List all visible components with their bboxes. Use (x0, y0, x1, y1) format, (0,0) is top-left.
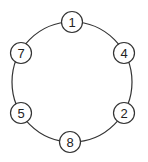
node-label: 4 (120, 46, 127, 61)
node-label: 1 (68, 15, 75, 30)
node-4: 4 (114, 43, 135, 64)
cycle-diagram: 142857 (0, 0, 148, 162)
node-label: 5 (17, 106, 24, 121)
node-2: 2 (114, 103, 135, 124)
ring-edges (12, 22, 132, 142)
node-8: 8 (60, 132, 81, 153)
node-label: 8 (66, 135, 73, 150)
nodes-group: 142857 (11, 12, 135, 153)
node-1: 1 (62, 12, 83, 33)
node-label: 7 (17, 46, 24, 61)
node-7: 7 (11, 43, 32, 64)
node-label: 2 (120, 106, 127, 121)
node-5: 5 (11, 103, 32, 124)
